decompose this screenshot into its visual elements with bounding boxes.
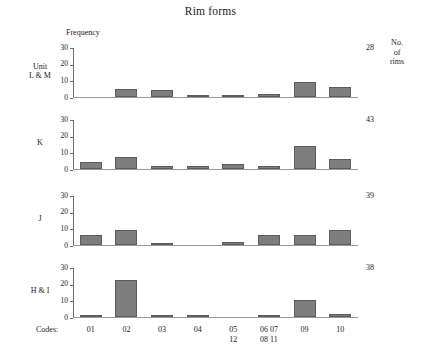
bar: [222, 95, 244, 97]
code-label-7: 10: [336, 325, 344, 335]
code-label-3: 04: [194, 325, 202, 335]
panel-total-2: 43: [366, 115, 374, 124]
y-tick-mark: [70, 65, 73, 66]
bar: [151, 166, 173, 169]
code-label-5: 06 0708 11: [260, 325, 278, 344]
plot-area-4: 0102030: [73, 268, 358, 318]
bar: [187, 95, 209, 97]
code-label-line-0: 01: [87, 325, 95, 335]
x-axis-line: [73, 245, 358, 246]
y-tick-label: 10: [61, 148, 69, 157]
bar: [115, 230, 137, 245]
bar: [329, 159, 351, 169]
y-tick-mark: [70, 170, 73, 171]
code-label-1: 02: [122, 325, 130, 335]
y-tick-label: 30: [61, 43, 69, 52]
y-axis-line: [73, 120, 74, 170]
bar: [294, 300, 316, 317]
y-tick-mark: [70, 301, 73, 302]
code-label-line-1: 08 11: [260, 335, 278, 345]
bar: [329, 314, 351, 317]
y-axis-line: [73, 268, 74, 318]
y-tick-30: 30: [73, 196, 76, 197]
y-axis-line: [73, 48, 74, 98]
bar: [258, 94, 280, 97]
bar: [115, 89, 137, 97]
y-tick-label: 30: [61, 263, 69, 272]
code-label-2: 03: [158, 325, 166, 335]
bar: [151, 243, 173, 245]
y-tick-label: 0: [64, 165, 68, 174]
right-axis-title: No.ofrims: [377, 38, 417, 67]
y-tick-30: 30: [73, 120, 76, 121]
bar: [222, 242, 244, 245]
bar: [294, 146, 316, 169]
code-label-line-0: 03: [158, 325, 166, 335]
bar: [329, 230, 351, 245]
y-tick-mark: [70, 229, 73, 230]
bar: [80, 162, 102, 169]
bar: [80, 315, 102, 317]
y-tick-20: 20: [73, 213, 76, 214]
bar: [258, 166, 280, 169]
y-tick-20: 20: [73, 65, 76, 66]
y-tick-mark: [70, 48, 73, 49]
right-axis-title-line-0: No.: [377, 38, 417, 48]
code-label-line-0: 02: [122, 325, 130, 335]
y-tick-mark: [70, 98, 73, 99]
y-tick-10: 10: [73, 229, 76, 230]
code-label-0: 01: [87, 325, 95, 335]
panel-label-line-0: Unit: [18, 62, 62, 72]
bar: [187, 166, 209, 169]
y-tick-label: 20: [61, 59, 69, 68]
y-tick-mark: [70, 213, 73, 214]
bar: [258, 235, 280, 245]
y-tick-label: 30: [61, 191, 69, 200]
code-label-line-1: 12: [229, 335, 237, 345]
code-label-6: 09: [301, 325, 309, 335]
x-axis-line: [73, 169, 358, 170]
panel-label-line-0: J: [18, 214, 62, 224]
bar: [151, 90, 173, 97]
y-tick-20: 20: [73, 137, 76, 138]
bar: [115, 280, 137, 317]
panel-total-1: 28: [366, 43, 374, 52]
y-tick-label: 0: [64, 241, 68, 250]
panel-total-4: 38: [366, 263, 374, 272]
y-tick-30: 30: [73, 268, 76, 269]
x-axis-line: [73, 317, 358, 318]
bar: [151, 315, 173, 317]
bar: [115, 157, 137, 169]
plot-area-2: 0102030: [73, 120, 358, 170]
panel-label-line-1: L & M: [18, 71, 62, 81]
chart-title: Rim forms: [0, 5, 421, 17]
panel-label-2: K: [18, 138, 62, 148]
y-tick-mark: [70, 268, 73, 269]
y-tick-mark: [70, 120, 73, 121]
y-tick-10: 10: [73, 81, 76, 82]
y-tick-label: 0: [64, 93, 68, 102]
bar: [258, 315, 280, 317]
x-axis-line: [73, 97, 358, 98]
y-tick-label: 20: [61, 207, 69, 216]
y-tick-mark: [70, 246, 73, 247]
y-tick-mark: [70, 318, 73, 319]
code-label-line-0: 06 07: [260, 325, 278, 335]
right-axis-title-line-2: rims: [377, 57, 417, 67]
y-tick-10: 10: [73, 153, 76, 154]
y-tick-label: 20: [61, 279, 69, 288]
y-tick-0: 0: [73, 98, 76, 99]
code-label-4: 0512: [229, 325, 237, 344]
rim-forms-chart: Rim forms Frequency No.ofrims UnitL & M2…: [0, 0, 421, 363]
panel-label-3: J: [18, 214, 62, 224]
y-tick-label: 10: [61, 76, 69, 85]
panel-label-1: UnitL & M: [18, 62, 62, 81]
right-axis-title-line-1: of: [377, 48, 417, 58]
code-label-line-0: 05: [229, 325, 237, 335]
panel-total-3: 39: [366, 191, 374, 200]
panel-label-4: H & I: [18, 286, 62, 296]
y-tick-label: 30: [61, 115, 69, 124]
y-tick-label: 20: [61, 131, 69, 140]
bar: [329, 87, 351, 97]
y-tick-0: 0: [73, 170, 76, 171]
